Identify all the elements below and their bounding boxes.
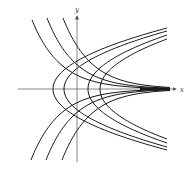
exponential-curve — [63, 18, 170, 87]
orthogonal-trajectories-diagram: x y — [0, 0, 195, 171]
x-axis-label: x — [180, 86, 184, 94]
exponential-curve — [46, 90, 170, 160]
exponential-curve — [31, 89, 170, 160]
exponential-curve — [62, 91, 170, 160]
y-axis-label: y — [74, 6, 80, 14]
exponential-curve — [47, 18, 170, 88]
